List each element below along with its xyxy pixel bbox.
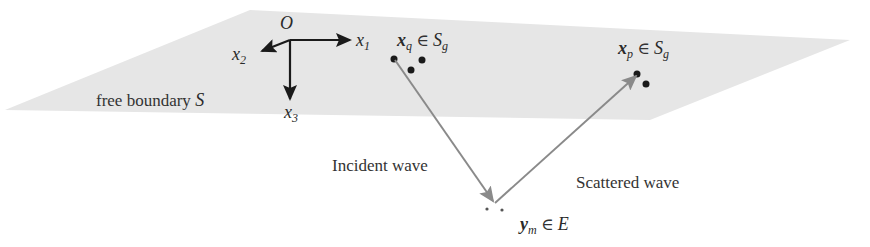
free-boundary-label: free boundary S bbox=[96, 90, 204, 110]
xq-neighbor-dot bbox=[408, 67, 415, 74]
xq-label: xq ∈ Sg bbox=[396, 30, 448, 53]
xp-neighbor-dot bbox=[643, 81, 650, 88]
ym-dot bbox=[500, 208, 503, 211]
elastic-wave-scattering-diagram: O x1 x2 x3 free boundary S xq ∈ Sg xp ∈ … bbox=[0, 0, 870, 247]
incident-wave-label: Incident wave bbox=[332, 156, 428, 175]
ym-dot bbox=[485, 207, 488, 210]
xq-neighbor-dot bbox=[419, 57, 426, 64]
scattered-wave-label: Scattered wave bbox=[576, 173, 679, 192]
xp-label: xp ∈ Sg bbox=[617, 38, 669, 61]
ym-label: ym ∈ E bbox=[518, 214, 569, 237]
origin-label: O bbox=[280, 13, 293, 33]
defect-point-group-ym: ym ∈ E bbox=[485, 207, 568, 237]
